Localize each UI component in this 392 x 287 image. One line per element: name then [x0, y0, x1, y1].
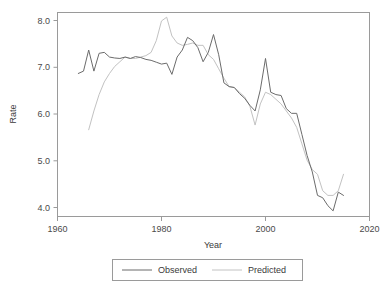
x-tick-label-1980: 1980: [151, 224, 171, 234]
legend: Observed Predicted: [113, 260, 303, 281]
x-tick-label-2000: 2000: [255, 224, 275, 234]
series-line-observed: [78, 35, 343, 211]
chart-figure: 8.0 7.0 6.0 5.0 4.0 1960 1980 2000 2020 …: [0, 0, 392, 287]
y-tick-label-4: 4.0: [37, 203, 50, 213]
plot-frame: [58, 13, 370, 217]
x-axis-tick-labels: 1960 1980 2000 2020: [47, 224, 379, 234]
y-axis-ticks: [54, 21, 58, 208]
series-group: [78, 17, 343, 211]
y-tick-label-8: 8.0: [37, 16, 50, 26]
x-tick-label-1960: 1960: [47, 224, 67, 234]
line-chart: 8.0 7.0 6.0 5.0 4.0 1960 1980 2000 2020 …: [0, 0, 392, 287]
y-tick-label-5: 5.0: [37, 156, 50, 166]
x-axis-title: Year: [204, 240, 222, 250]
legend-label-observed: Observed: [158, 265, 197, 275]
y-axis-tick-labels: 8.0 7.0 6.0 5.0 4.0: [37, 16, 50, 213]
legend-label-predicted: Predicted: [248, 265, 286, 275]
y-axis-title: Rate: [8, 104, 18, 123]
x-axis-ticks: [58, 217, 370, 222]
y-tick-label-7: 7.0: [37, 62, 50, 72]
x-tick-label-2020: 2020: [359, 224, 379, 234]
y-tick-label-6: 6.0: [37, 109, 50, 119]
